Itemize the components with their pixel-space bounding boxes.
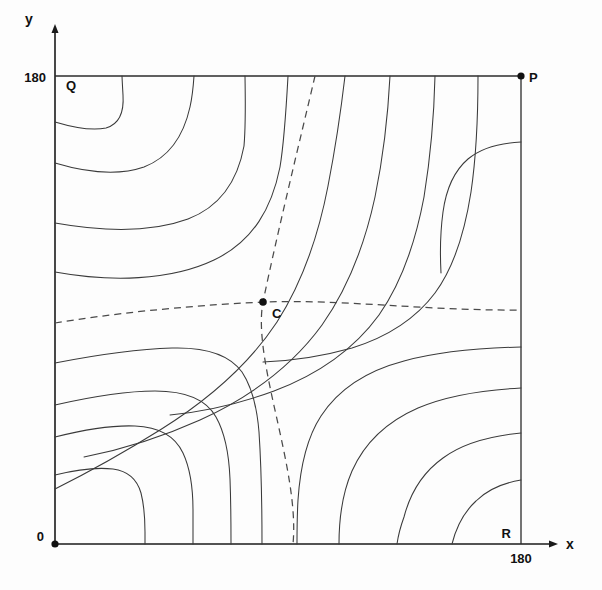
y-axis-arrow-icon: [52, 24, 59, 33]
contour-family-q: [55, 76, 288, 278]
contour-line: [84, 76, 390, 457]
contour-line: [55, 76, 245, 229]
y-axis-max-tick-label: 180: [24, 70, 46, 85]
x-axis-arrow-icon: [549, 541, 558, 548]
origin-tick-label: 0: [37, 529, 44, 544]
separatrix-group: [55, 76, 521, 544]
contour-line: [440, 142, 521, 273]
marker-dot-origin: [51, 540, 58, 547]
contour-family-origin: [55, 348, 262, 544]
vertical-separatrix: [261, 76, 315, 544]
corner-label-q: Q: [66, 78, 76, 93]
saddle-point-label-c: C: [272, 306, 282, 321]
contour-line: [263, 76, 478, 362]
marker-dot-saddle-c: [259, 298, 267, 306]
plot-frame: [55, 76, 521, 544]
contour-family-p: [55, 76, 521, 489]
marker-dot-p: [517, 72, 524, 79]
contour-plot-svg: y x 180 0 180 Q P R C: [0, 0, 602, 590]
x-axis-label: x: [566, 536, 574, 552]
axes-group: [52, 24, 559, 548]
contour-line: [55, 391, 231, 544]
y-axis-label: y: [25, 11, 33, 27]
contour-line: [55, 76, 345, 489]
contour-figure: y x 180 0 180 Q P R C: [0, 0, 602, 590]
contour-family-r: [297, 347, 521, 544]
contour-line: [55, 76, 288, 278]
contour-line: [55, 426, 193, 544]
corner-label-p: P: [529, 70, 538, 85]
contour-line: [297, 347, 521, 544]
x-axis-max-tick-label: 180: [510, 551, 532, 566]
contour-line: [55, 468, 145, 544]
corner-label-r: R: [502, 526, 512, 541]
contour-line: [339, 388, 521, 544]
horizontal-separatrix: [55, 302, 521, 323]
